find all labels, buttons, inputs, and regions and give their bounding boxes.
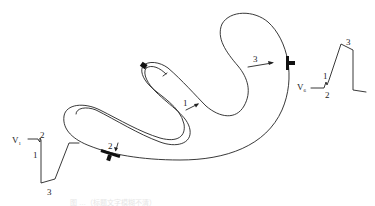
v6-label-2: 2 — [325, 90, 330, 100]
electrode-v6-icon — [286, 56, 295, 70]
v1-waveform — [28, 138, 79, 183]
electrode-v1-icon — [99, 149, 121, 164]
heart-outline — [64, 13, 289, 160]
vector-3-label: 3 — [253, 54, 258, 64]
heart-activation-diagram: 1 2 3 V1 2 1 3 V6 1 2 3 — [0, 0, 375, 206]
v6-label-3: 3 — [346, 37, 351, 47]
v6-lead-label: V6 — [297, 82, 307, 93]
v6-label-1: 1 — [323, 71, 328, 81]
v1-label-2: 2 — [40, 130, 45, 140]
vector-3-arrow — [248, 63, 272, 67]
vector-2-arrowhead — [114, 147, 118, 152]
vector-2-label: 2 — [108, 141, 113, 151]
v6-waveform — [311, 44, 366, 92]
vector-1-label: 1 — [183, 98, 188, 108]
v1-label-1: 1 — [33, 150, 38, 160]
v1-label-3: 3 — [47, 187, 52, 197]
v1-lead-label: V1 — [12, 135, 22, 146]
figure-caption: 图 …（标题文字模糊不清） — [70, 197, 156, 206]
vector-3-arrowhead — [268, 61, 274, 65]
